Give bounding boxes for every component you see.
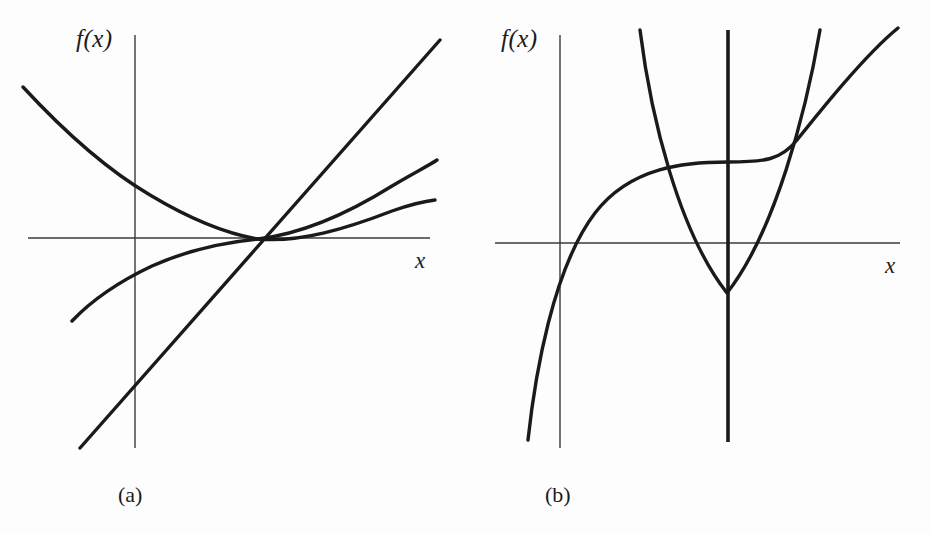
figure-container: f(x) x (a) f(x) x (b): [0, 0, 930, 534]
panel-b-x-axis-label: x: [885, 253, 895, 279]
panel-a-curve-increasing-concave: [72, 160, 437, 321]
panel-a-plot: [0, 0, 465, 534]
panel-b-caption: (b): [545, 482, 571, 508]
panel-b: f(x) x (b): [465, 0, 930, 534]
panel-b-plot: [465, 0, 930, 534]
panel-a-line-straight: [80, 40, 440, 448]
panel-a-x-axis-label: x: [415, 248, 425, 274]
panel-a-caption: (a): [118, 482, 142, 508]
panel-a: f(x) x (a): [0, 0, 465, 534]
panel-b-y-axis-label: f(x): [501, 25, 538, 53]
panel-a-curve-decreasing-convex: [23, 87, 435, 240]
panel-a-y-axis-label: f(x): [76, 25, 113, 53]
panel-b-curve-s-shaped: [528, 28, 898, 440]
